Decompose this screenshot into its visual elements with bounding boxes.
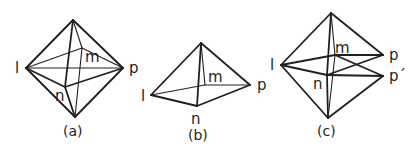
label-p-b: p <box>257 76 267 94</box>
figure-b-square-pyramid: l m n p (b) <box>141 43 267 143</box>
caption-c: (c) <box>317 123 336 139</box>
label-p-c: p <box>389 46 399 64</box>
label-m-a: m <box>85 48 100 66</box>
label-n-b: n <box>191 110 201 128</box>
figure-c-distorted-octahedron: l m n p p´ (c) <box>270 13 406 139</box>
label-n-a: n <box>55 87 65 105</box>
label-m-b: m <box>208 68 223 86</box>
label-p-prime-c: p´ <box>389 67 406 85</box>
label-m-c: m <box>335 39 350 57</box>
label-l-a: l <box>15 59 19 77</box>
caption-b: (b) <box>188 127 208 143</box>
caption-a: (a) <box>63 123 83 139</box>
label-n-c: n <box>313 75 323 93</box>
label-l-c: l <box>270 56 274 74</box>
label-l-b: l <box>141 87 145 105</box>
figure-a-octahedron: l m n p (a) <box>15 20 139 139</box>
label-p-a: p <box>129 59 139 77</box>
coordination-geometry-diagram: l m n p (a) l m n p (b) l <box>0 0 420 146</box>
